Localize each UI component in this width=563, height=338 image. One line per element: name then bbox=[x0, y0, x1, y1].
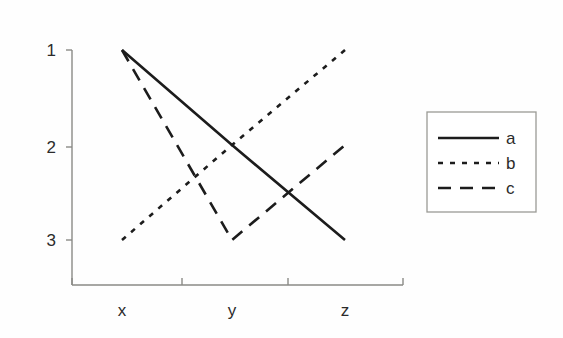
legend-label-b: b bbox=[506, 155, 515, 172]
x-tick-label-y: y bbox=[219, 302, 245, 319]
y-tick-label-2: 2 bbox=[34, 139, 56, 156]
line-chart: 1 2 3 x y z a b c bbox=[0, 0, 563, 338]
legend-label-c: c bbox=[506, 180, 515, 197]
x-tick-label-z: z bbox=[332, 302, 358, 319]
y-tick-label-1: 1 bbox=[34, 42, 56, 59]
x-tick-label-x: x bbox=[109, 302, 135, 319]
legend-label-a: a bbox=[506, 130, 515, 147]
series-line-a bbox=[122, 50, 345, 240]
y-tick-label-3: 3 bbox=[34, 232, 56, 249]
chart-plot-area bbox=[0, 0, 563, 338]
legend-box bbox=[427, 112, 536, 212]
